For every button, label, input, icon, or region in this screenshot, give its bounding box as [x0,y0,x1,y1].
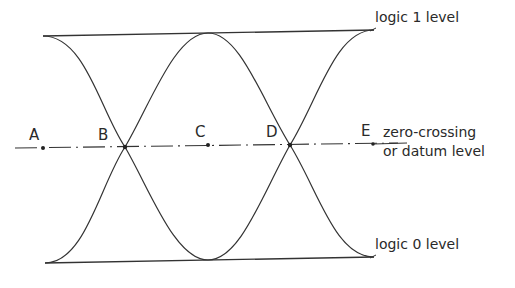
logic-0-level-label: logic 0 level [375,236,459,252]
logic-1-level-label: logic 1 level [375,9,459,25]
point-e-label: E [361,123,370,139]
point-a-dot [41,146,45,150]
waveform-curve-2 [45,33,374,263]
point-b-label: B [98,127,108,143]
datum-label-line1: zero-crossing [383,124,476,140]
point-c-dot [206,143,210,147]
point-d-dot [288,143,292,147]
point-d-label: D [266,124,278,140]
datum-label-line2: or datum level [383,143,485,159]
point-a-label: A [29,127,39,143]
point-b-dot [123,145,127,149]
point-c-label: C [195,124,205,140]
